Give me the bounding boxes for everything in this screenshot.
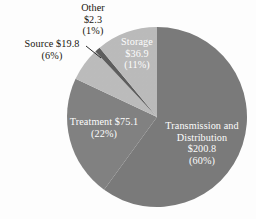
slice-label-transmission-line4: (60%) [152, 155, 252, 167]
slice-label-transmission-line2: Distribution [152, 132, 252, 144]
slice-label-other-line2: $2.3 [62, 14, 124, 26]
slice-label-treatment-line2: (22%) [56, 128, 152, 140]
slice-label-storage-line1: Storage [104, 36, 170, 48]
slice-label-treatment-line1: Treatment $75.1 [56, 116, 152, 128]
slice-label-transmission-and-distribution: Transmission and Distribution $200.8 (60… [152, 120, 252, 167]
slice-label-other: Other $2.3 (1%) [62, 2, 124, 37]
slice-label-other-line1: Other [62, 2, 124, 14]
slice-label-transmission-line1: Transmission and [152, 120, 252, 132]
slice-label-source-line2: (6%) [6, 50, 98, 62]
slice-label-source: Source $19.8 (6%) [6, 38, 98, 61]
slice-label-storage: Storage $36.9 (11%) [104, 36, 170, 71]
pie-chart-figure: Other $2.3 (1%) Source $19.8 (6%) Storag… [0, 0, 256, 219]
slice-label-source-line1: Source $19.8 [6, 38, 98, 50]
slice-label-treatment: Treatment $75.1 (22%) [56, 116, 152, 139]
pie-chart-svg [0, 0, 256, 219]
slice-label-storage-line2: $36.9 [104, 48, 170, 60]
slice-label-storage-line3: (11%) [104, 59, 170, 71]
slice-label-transmission-line3: $200.8 [152, 143, 252, 155]
